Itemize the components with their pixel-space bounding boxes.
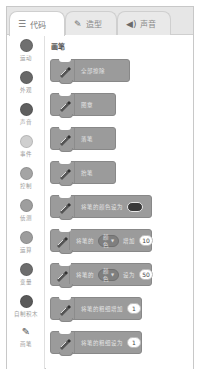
sound-dot-icon — [20, 103, 33, 116]
category-motion[interactable]: 运动 — [7, 39, 45, 69]
block-set-pen-param[interactable]: 将笔的 颜色 ▼ 设为 50 — [50, 263, 152, 286]
tab-code[interactable]: ☰ 代码 — [9, 11, 65, 36]
block-stamp[interactable]: 图章 — [50, 93, 116, 116]
block-label: 图章 — [81, 101, 93, 109]
events-dot-icon — [20, 135, 33, 148]
category-looks[interactable]: 外观 — [7, 71, 45, 101]
category-label: 运动 — [20, 54, 32, 62]
block-change-pen-size[interactable]: 将笔的粗细增加 1 — [50, 297, 142, 320]
tab-costumes-label: 造型 — [86, 18, 102, 29]
code-icon: ☰ — [18, 19, 26, 29]
category-control[interactable]: 控制 — [7, 167, 45, 197]
block-label: 抬笔 — [81, 169, 93, 177]
category-menu: 运动 外观 声音 事件 控制 侦测 运算 变量 — [7, 35, 45, 369]
color-picker[interactable] — [127, 202, 143, 212]
tab-code-label: 代码 — [30, 19, 46, 30]
block-change-pen-param[interactable]: 将笔的 颜色 ▼ 增加 10 — [50, 229, 152, 252]
category-label: 运算 — [20, 246, 32, 254]
category-label: 外观 — [20, 86, 32, 94]
speaker-icon: ◀) — [126, 19, 136, 29]
category-label: 控制 — [20, 182, 32, 190]
block-label: 落笔 — [81, 135, 93, 143]
pen-icon — [55, 196, 75, 217]
value-input[interactable]: 1 — [127, 303, 141, 314]
variables-dot-icon — [20, 263, 33, 276]
block-palette: 画笔 全部擦除 图章 落笔 抬笔 将笔的颜色设为 将笔的 颜色 — [46, 35, 193, 369]
tab-costumes[interactable]: ✎ 造型 — [65, 11, 117, 35]
category-label: 画笔 — [20, 340, 32, 348]
pen-icon — [55, 332, 75, 353]
tab-sounds-label: 声音 — [140, 18, 156, 29]
operators-dot-icon — [20, 231, 33, 244]
category-operators[interactable]: 运算 — [7, 231, 45, 261]
category-label: 变量 — [20, 278, 32, 286]
category-events[interactable]: 事件 — [7, 135, 45, 165]
value-input[interactable]: 50 — [139, 269, 153, 280]
block-label: 将笔的颜色设为 — [81, 203, 123, 211]
param-dropdown[interactable]: 颜色 ▼ — [98, 235, 119, 247]
dropdown-value: 颜色 — [103, 267, 109, 283]
block-label: 全部擦除 — [81, 67, 105, 75]
value-input[interactable]: 1 — [127, 337, 141, 348]
block-set-pen-size[interactable]: 将笔的粗细设为 1 — [50, 331, 142, 354]
dropdown-value: 颜色 — [103, 233, 109, 249]
category-label: 声音 — [20, 118, 32, 126]
category-variables[interactable]: 变量 — [7, 263, 45, 293]
pen-icon — [55, 128, 75, 149]
param-dropdown[interactable]: 颜色 ▼ — [98, 269, 119, 281]
block-label: 增加 — [123, 237, 135, 245]
motion-dot-icon — [20, 39, 33, 52]
section-title: 画笔 — [51, 41, 65, 51]
pen-icon — [55, 94, 75, 115]
category-pen[interactable]: ✎ 画笔 — [7, 325, 45, 355]
my-blocks-dot-icon — [20, 295, 33, 308]
control-dot-icon — [20, 167, 33, 180]
block-label: 将笔的 — [76, 271, 94, 279]
block-pen-up[interactable]: 抬笔 — [50, 161, 116, 184]
looks-dot-icon — [20, 71, 33, 84]
block-label: 设为 — [123, 271, 135, 279]
block-label: 将笔的粗细设为 — [81, 339, 123, 347]
editor-tabs: ☰ 代码 ✎ 造型 ◀) 声音 — [7, 7, 193, 35]
chevron-down-icon: ▼ — [111, 238, 114, 243]
pen-icon — [55, 298, 75, 319]
pen-icon: ✎ — [22, 325, 30, 338]
pen-icon — [55, 264, 70, 285]
block-pen-down[interactable]: 落笔 — [50, 127, 116, 150]
pen-icon — [55, 162, 75, 183]
brush-icon: ✎ — [74, 19, 82, 29]
chevron-down-icon: ▼ — [111, 272, 114, 277]
category-my-blocks[interactable]: 自制积木 — [7, 295, 45, 325]
category-sensing[interactable]: 侦测 — [7, 199, 45, 229]
category-label: 侦测 — [20, 214, 32, 222]
tab-sounds[interactable]: ◀) 声音 — [117, 11, 171, 35]
sensing-dot-icon — [20, 199, 33, 212]
block-label: 将笔的粗细增加 — [81, 305, 123, 313]
block-clear[interactable]: 全部擦除 — [50, 59, 130, 82]
code-panel: ☰ 代码 ✎ 造型 ◀) 声音 运动 外观 声音 事件 — [6, 6, 194, 369]
block-label: 将笔的 — [76, 237, 94, 245]
block-set-pen-color[interactable]: 将笔的颜色设为 — [50, 195, 152, 218]
value-input[interactable]: 10 — [139, 235, 153, 246]
category-label: 事件 — [20, 150, 32, 158]
category-label: 自制积木 — [14, 310, 38, 318]
pen-icon — [55, 60, 75, 81]
category-sound[interactable]: 声音 — [7, 103, 45, 133]
pen-icon — [55, 230, 70, 251]
